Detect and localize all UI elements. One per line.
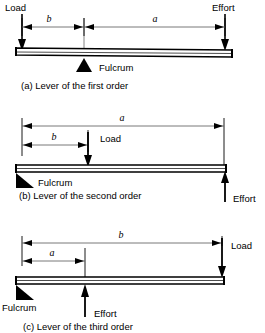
diagram-lever-second-order: a b Load Fulcrum Eff [0,104,265,212]
effort-force-arrow-c [81,284,89,317]
dimension-a-c: a [22,247,85,264]
lever-beam-c [16,276,224,285]
load-label-c: Load [231,240,252,251]
lever-classes-figure: Load Effort b a [0,0,265,333]
lever-beam-b [16,164,226,173]
load-label-a: Load [5,2,26,13]
fulcrum-label-b: Fulcrum [38,177,72,188]
fulcrum-triangle-a [76,58,92,72]
diagram-lever-third-order: b a Load Fulcrum Eff [0,216,265,333]
dimension-a-label-c: a [50,247,55,258]
dimension-b-c: b [22,229,222,246]
fulcrum-triangle-b [16,173,34,188]
caption-lever-third-order: (c) Lever of the third order [23,321,133,332]
fulcrum-label-a: Fulcrum [99,62,133,73]
effort-label-b: Effort [233,193,256,204]
lever-beam-a [16,47,232,58]
dimension-b-label-a: b [47,13,52,24]
dimension-b-label-b: b [52,131,57,142]
caption-lever-first-order: (a) Lever of the first order [21,80,128,91]
dimension-b-a: b [22,13,84,30]
effort-force-arrow-b [221,171,229,202]
diagram-lever-first-order: Load Effort b a [0,0,265,96]
dimension-b-b: b [22,131,88,148]
dimension-a-label-b: a [120,112,125,123]
dimension-a-a: a [84,13,225,30]
load-force-arrow-b [84,132,92,167]
fulcrum-triangle-c [16,285,34,300]
effort-label-c: Effort [94,308,117,319]
load-label-b: Load [100,133,121,144]
fulcrum-label-c: Fulcrum [2,302,36,313]
dimension-a-b: a [22,112,224,129]
dimension-a-label-a: a [153,13,158,24]
load-force-arrow-c [218,238,226,278]
effort-label-a: Effort [212,2,235,13]
dimension-b-label-c: b [119,229,124,240]
caption-lever-second-order: (b) Lever of the second order [19,190,142,201]
